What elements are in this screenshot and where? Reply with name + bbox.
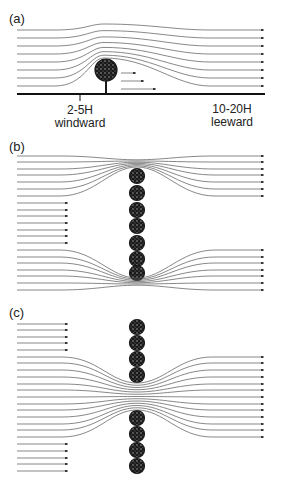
windbreak-tree-icon bbox=[130, 427, 145, 442]
windward-distance-label: 2-5H bbox=[67, 104, 93, 116]
streamline-under-bottom bbox=[17, 285, 264, 290]
streamline bbox=[17, 24, 264, 30]
windbreak-flow-diagram: (a) (b) (c) 2-5H windward 10-20H leeward bbox=[0, 0, 281, 487]
windward-label: windward bbox=[55, 117, 106, 129]
windbreak-tree-icon bbox=[130, 368, 145, 383]
streamline-over-top bbox=[17, 161, 264, 162]
windbreak-tree-icon bbox=[130, 219, 145, 234]
windbreak-tree-icon bbox=[130, 252, 145, 267]
panel-label-a: (a) bbox=[9, 12, 25, 25]
windbreak-tree-icon bbox=[130, 236, 145, 251]
windbreak-tree-icon bbox=[130, 411, 145, 426]
panel-label-c: (c) bbox=[9, 306, 24, 319]
windbreak-tree-icon bbox=[130, 443, 145, 458]
streamline bbox=[17, 55, 264, 78]
windbreak-tree-icon bbox=[130, 203, 145, 218]
streamline bbox=[17, 43, 264, 55]
flow-diagram-svg bbox=[0, 0, 281, 487]
leeward-distance-label: 10-20H bbox=[212, 103, 251, 115]
windbreak-tree-icon bbox=[130, 186, 145, 201]
leeward-label: leeward bbox=[211, 116, 253, 128]
streamline-under-bottom bbox=[17, 283, 264, 284]
streamline bbox=[17, 52, 264, 70]
windbreak-tree-icon bbox=[130, 320, 145, 335]
windbreak-tree-icon bbox=[130, 352, 145, 367]
windbreak-tree-icon bbox=[130, 459, 145, 474]
tree-canopy-icon bbox=[95, 59, 117, 81]
windbreak-tree-icon bbox=[130, 169, 145, 184]
streamline-through-gap bbox=[17, 397, 264, 398]
streamline bbox=[17, 31, 264, 38]
windbreak-tree-icon bbox=[130, 336, 145, 351]
streamline-over-top bbox=[17, 156, 264, 160]
panel-label-b: (b) bbox=[9, 140, 25, 153]
